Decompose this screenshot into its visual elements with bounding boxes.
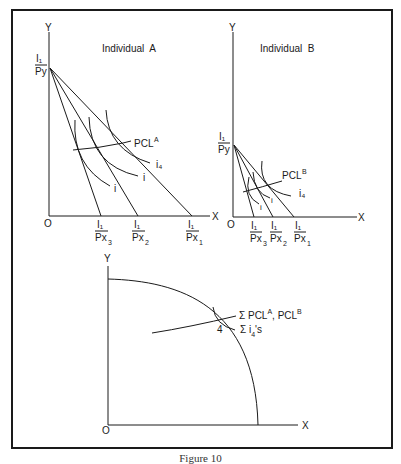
a-xint2-num: I₁: [134, 219, 141, 230]
a-title: Individual A: [102, 43, 156, 54]
agg-point-label: 4: [217, 324, 223, 335]
a-xint3-num: I₁: [97, 219, 104, 230]
panel-aggregate: [108, 266, 298, 425]
b-xint1-num: I₁: [295, 220, 302, 231]
agg-sum-pcl-label: Σ PCLA, PCLB: [239, 308, 302, 321]
b-xint1-den: Px: [294, 233, 306, 244]
a-indiff-label-2: i: [143, 172, 145, 183]
a-indifference-curve-i4: [106, 110, 150, 163]
agg-sum-i4-label: Σ i4's: [240, 324, 262, 338]
b-indiff-label-1: i: [260, 203, 262, 212]
a-xint2-sub: 2: [145, 239, 149, 246]
agg-frontier-curve: [108, 279, 258, 425]
b-xint2-num: I₁: [271, 220, 278, 231]
agg-origin-label: O: [102, 425, 110, 436]
a-budget-line-1: [50, 68, 192, 216]
a-indifference-curve-1: [75, 120, 110, 186]
a-x-axis-label: X: [212, 211, 219, 222]
agg-x-axis-label: X: [302, 420, 309, 431]
b-budget-line-1: [234, 145, 294, 217]
b-xint3-num: I₁: [251, 220, 258, 231]
b-budget-line-3: [234, 145, 254, 217]
b-title: Individual B: [260, 43, 315, 54]
a-pcl-label: PCL: [134, 138, 154, 149]
b-xint2-den: Px: [270, 233, 282, 244]
b-xint3-sub: 3: [263, 240, 267, 247]
b-budget-line-2: [234, 145, 273, 217]
a-xint2-den: Px: [132, 232, 144, 243]
a-pcl-sup: A: [154, 136, 159, 143]
b-pcl-sup: B: [302, 168, 307, 175]
b-yint-den: Py: [218, 144, 230, 155]
b-xint3-den: Px: [250, 233, 262, 244]
b-xint2-sub: 2: [283, 240, 287, 247]
b-origin-label: O: [227, 219, 235, 230]
b-indiff-label-i4: i₄: [299, 188, 305, 199]
a-indiff-label-i4: i₄: [156, 159, 162, 170]
figure-caption: Figure 10: [0, 452, 401, 464]
b-indiff-label-2: i: [271, 196, 273, 205]
a-xint1-num: I₁: [188, 219, 195, 230]
a-xint3-sub: 3: [108, 239, 112, 246]
b-pcl-label: PCL: [282, 170, 302, 181]
agg-y-axis-label: Y: [104, 253, 111, 264]
a-indiff-label-1: i: [114, 183, 116, 194]
a-xint1-sub: 1: [199, 239, 203, 246]
a-price-consumption-line: [73, 141, 131, 150]
a-xint3-den: Px: [95, 232, 107, 243]
panel-individual-b: [233, 32, 357, 217]
b-y-axis-label: Y: [229, 22, 236, 33]
b-price-consumption-line: [243, 181, 282, 192]
a-yint-num: I₁: [36, 53, 43, 64]
panel-individual-a: [49, 32, 210, 216]
b-xint1-sub: 1: [307, 240, 311, 247]
b-yint-num: I₁: [219, 131, 226, 142]
a-yint-den: Py: [35, 66, 47, 77]
a-origin-label: O: [44, 218, 52, 229]
a-y-axis-label: Y: [45, 22, 52, 33]
b-x-axis-label: X: [358, 212, 365, 223]
a-xint1-den: Px: [186, 232, 198, 243]
